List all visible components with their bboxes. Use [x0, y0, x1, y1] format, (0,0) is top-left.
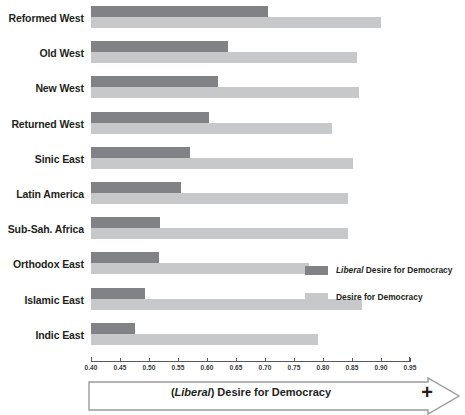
- axis-title-arrow-banner: (Liberal) Desire for Democracy +: [88, 377, 460, 415]
- legend-swatch-liberal: [305, 266, 328, 275]
- x-axis-tick: [265, 358, 266, 362]
- x-axis-tick: [410, 358, 411, 362]
- legend-item-liberal-desire: Liberal Desire for Democracy: [305, 263, 465, 283]
- bar-liberal-desire: [91, 288, 145, 299]
- bar-desire: [91, 87, 359, 98]
- axis-title-suffix: ) Desire for Democracy: [211, 386, 331, 398]
- chart-row: Sub-Sah. Africa: [0, 217, 465, 241]
- x-axis-tick: [294, 358, 295, 362]
- bar-liberal-desire: [91, 217, 160, 228]
- x-axis-tick: [207, 358, 208, 362]
- plus-icon: +: [414, 382, 440, 402]
- x-axis-line: [91, 361, 410, 362]
- chart-row: Sinic East: [0, 147, 465, 171]
- bar-desire: [91, 334, 318, 345]
- x-axis-tick: [381, 358, 382, 362]
- bar-desire: [91, 158, 353, 169]
- bar-liberal-desire: [91, 252, 159, 263]
- category-label: Reformed West: [0, 8, 84, 28]
- x-axis-tick: [178, 358, 179, 362]
- bar-desire: [91, 193, 348, 204]
- bar-desire: [91, 17, 381, 28]
- chart-row: New West: [0, 76, 465, 100]
- x-axis-tick: [352, 358, 353, 362]
- bar-desire: [91, 123, 332, 134]
- bar-liberal-desire: [91, 76, 218, 87]
- x-axis-tick: [149, 358, 150, 362]
- legend-text-liberal: Desire for Democracy: [363, 265, 452, 275]
- category-label: Indic East: [0, 325, 84, 345]
- bar-desire: [91, 52, 357, 63]
- category-label: Latin America: [0, 184, 84, 204]
- bar-liberal-desire: [91, 323, 135, 334]
- bar-liberal-desire: [91, 6, 268, 17]
- x-axis-tick: [91, 358, 92, 362]
- category-label: Sinic East: [0, 149, 84, 169]
- bar-desire: [91, 263, 309, 274]
- x-axis-tick: [236, 358, 237, 362]
- legend-item-desire: Desire for Democracy: [305, 290, 465, 310]
- chart-row: Returned West: [0, 112, 465, 136]
- chart-row: Indic East: [0, 323, 465, 347]
- x-axis-tick-label: 0.95: [390, 364, 430, 371]
- category-label: Orthodox East: [0, 254, 84, 274]
- chart-row: Latin America: [0, 182, 465, 206]
- bar-liberal-desire: [91, 147, 190, 158]
- legend-emphasis-liberal: Liberal: [336, 265, 363, 275]
- chart-row: Old West: [0, 41, 465, 65]
- bar-liberal-desire: [91, 182, 181, 193]
- x-axis-tick: [323, 358, 324, 362]
- bar-liberal-desire: [91, 41, 228, 52]
- category-label: Sub-Sah. Africa: [0, 219, 84, 239]
- category-label: Old West: [0, 43, 84, 63]
- chart-row: Reformed West: [0, 6, 465, 30]
- bar-liberal-desire: [91, 112, 209, 123]
- x-axis-tick: [120, 358, 121, 362]
- chart-container: Reformed WestOld WestNew WestReturned We…: [0, 0, 465, 415]
- axis-title-emphasis: Liberal: [175, 386, 211, 398]
- legend-text-desire: Desire for Democracy: [336, 292, 423, 302]
- category-label: Islamic East: [0, 290, 84, 310]
- legend-label-liberal: Liberal Desire for Democracy: [336, 263, 452, 277]
- category-label: New West: [0, 78, 84, 98]
- axis-title-text: (Liberal) Desire for Democracy: [88, 386, 414, 398]
- chart-legend: Liberal Desire for Democracy Desire for …: [305, 263, 465, 317]
- legend-label-desire: Desire for Democracy: [336, 290, 423, 304]
- bar-desire: [91, 228, 348, 239]
- category-label: Returned West: [0, 114, 84, 134]
- legend-swatch-desire: [305, 293, 328, 302]
